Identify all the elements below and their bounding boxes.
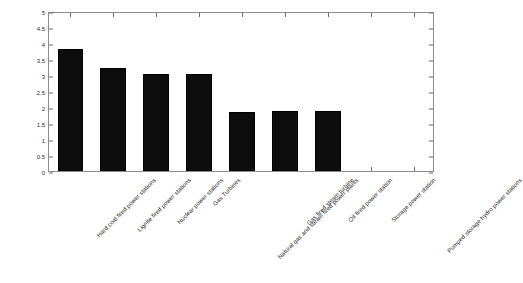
y-tick-mark-right <box>429 61 433 62</box>
x-tick-label: Gas Turbines <box>212 177 242 207</box>
x-tick-mark-top <box>70 13 71 17</box>
x-tick-mark-top <box>285 13 286 17</box>
bar <box>186 74 212 171</box>
y-tick-label: 3 <box>42 74 49 80</box>
x-tick-label: Pumped storage hydro power stations <box>446 177 523 254</box>
x-tick-mark-top <box>113 13 114 17</box>
bar <box>272 111 298 171</box>
y-tick-mark-right <box>429 77 433 78</box>
y-tick-mark <box>49 125 53 126</box>
y-tick-label: 4 <box>42 42 49 48</box>
y-tick-label: 0 <box>42 170 49 176</box>
x-tick-label: Hard coal fired power stations <box>96 177 157 238</box>
y-tick-mark <box>49 141 53 142</box>
y-tick-mark-right <box>429 141 433 142</box>
y-tick-label: 2.5 <box>37 90 49 96</box>
bar <box>315 111 341 171</box>
y-tick-mark-right <box>429 109 433 110</box>
x-tick-label: Natural gas and steam fired power plants <box>277 177 360 260</box>
x-tick-label: Lignite fired power stations <box>137 177 193 233</box>
y-tick-mark <box>49 157 53 158</box>
bar <box>143 74 169 171</box>
y-tick-mark-right <box>429 157 433 158</box>
y-tick-mark <box>49 61 53 62</box>
y-tick-mark <box>49 77 53 78</box>
y-tick-mark-right <box>429 125 433 126</box>
y-tick-mark-right <box>429 93 433 94</box>
x-tick-mark-top <box>199 13 200 17</box>
y-tick-label: 0.5 <box>37 154 49 160</box>
x-tick-mark-top <box>414 13 415 17</box>
bar <box>100 68 126 171</box>
y-tick-mark <box>49 173 53 174</box>
y-tick-label: 5 <box>42 10 49 16</box>
x-tick-mark-top <box>242 13 243 17</box>
y-tick-mark <box>49 45 53 46</box>
bar <box>229 112 255 171</box>
x-tick-mark <box>414 167 415 171</box>
x-tick-mark-top <box>371 13 372 17</box>
y-tick-label: 2 <box>42 106 49 112</box>
x-tick-mark-top <box>328 13 329 17</box>
bar <box>58 49 84 171</box>
y-tick-mark-right <box>429 29 433 30</box>
y-tick-mark <box>49 109 53 110</box>
y-tick-label: 3.5 <box>37 58 49 64</box>
x-tick-label: Oil fired power station <box>347 177 393 223</box>
y-tick-mark-right <box>429 45 433 46</box>
y-tick-label: 4.5 <box>37 26 49 32</box>
x-tick-label: Storage power station <box>390 177 436 223</box>
y-tick-label: 1.5 <box>37 122 49 128</box>
y-tick-mark-right <box>429 173 433 174</box>
y-tick-label: 1 <box>42 138 49 144</box>
y-tick-mark <box>49 29 53 30</box>
y-tick-mark-right <box>429 13 433 14</box>
plot-area: 00.511.522.533.544.55 <box>48 12 434 172</box>
x-tick-label: Nuclear power stations <box>176 177 224 225</box>
x-tick-label: Gas fired steam turbine <box>305 177 354 226</box>
x-tick-mark <box>371 167 372 171</box>
y-tick-mark <box>49 93 53 94</box>
x-tick-mark-top <box>156 13 157 17</box>
y-tick-mark <box>49 13 53 14</box>
